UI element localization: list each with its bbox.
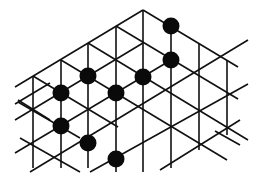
stone bbox=[80, 68, 97, 85]
lattice-lines bbox=[15, 10, 248, 172]
stone bbox=[135, 69, 152, 86]
lattice-line bbox=[20, 138, 80, 172]
stone bbox=[163, 18, 180, 35]
stone bbox=[163, 52, 180, 69]
stone bbox=[53, 118, 70, 135]
lattice-line bbox=[143, 10, 238, 67]
stone bbox=[53, 85, 70, 102]
stone bbox=[108, 85, 125, 102]
lattice-svg bbox=[0, 0, 261, 184]
stone bbox=[80, 135, 97, 152]
lattice-line bbox=[15, 43, 143, 120]
stone bbox=[108, 151, 125, 168]
lattice-line bbox=[15, 10, 143, 87]
lattice-diagram bbox=[0, 0, 261, 184]
